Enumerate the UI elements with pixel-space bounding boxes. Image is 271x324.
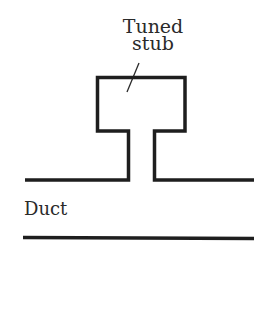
tuned-stub-diagram: Tuned stub Duct: [0, 0, 271, 324]
tuned-label-line2: stub: [132, 32, 174, 54]
duct-label: Duct: [24, 198, 68, 219]
stub-and-upper-duct-wall: [25, 78, 254, 181]
lower-duct-wall: [23, 238, 254, 239]
